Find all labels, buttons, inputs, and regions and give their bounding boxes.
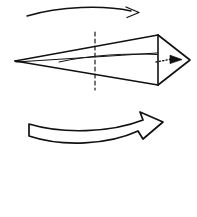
background [0,0,197,217]
figure-canvas: Precession diagram of a spinning cone [0,0,197,217]
diagram-svg [0,0,197,217]
